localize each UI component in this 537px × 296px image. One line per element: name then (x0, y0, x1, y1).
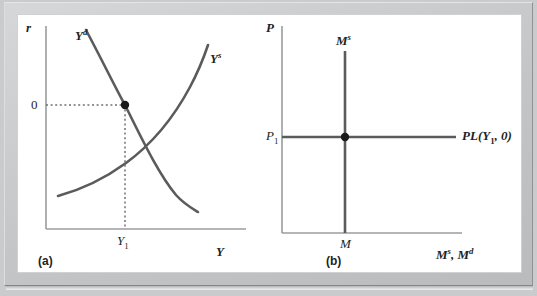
panel-b-x-axis-label: Ms, Md (436, 247, 473, 261)
panel-b-y-axis-label: P (266, 21, 274, 34)
figure-sheet: r Yd Ys 0 Y1 Y (a) P M (17, 14, 522, 273)
figure-frame-shadow (6, 286, 533, 290)
panel-b-y-tick-label-sub: 1 (274, 136, 278, 146)
panel-a-plot (18, 15, 266, 272)
panel-b-line-label-pl-suffix: , 0) (495, 128, 512, 143)
panel-a-caption: (a) (38, 255, 53, 267)
panel-a-x-tick-label: Y1 (117, 234, 129, 250)
panel-a-curve-label-yd-base: Y (75, 28, 83, 43)
panel-a-x-tick-label-sub: 1 (124, 241, 128, 251)
panel-b-x-tick-label: M (340, 237, 351, 250)
panel-a-curve-label-ys: Ys (210, 51, 221, 65)
panel-a-y-axis-label: r (26, 21, 31, 34)
figure-root: r Yd Ys 0 Y1 Y (a) P M (0, 0, 537, 296)
panel-a-x-axis-label: Y (216, 245, 224, 258)
panel-b-line-label-pl: PL(Y1, 0) (462, 129, 512, 145)
panel-b-line-label-pl-prefix: PL(Y (462, 128, 490, 143)
panel-b-line-label-ms: Ms (336, 33, 351, 47)
panel-b-y-tick-label-base: P (266, 128, 274, 143)
panel-b-money-market: P Ms P1 PL(Y1, 0) M Ms, Md (b) (266, 15, 521, 272)
panel-a-curve-yd (86, 30, 198, 212)
panel-b-equilibrium-dot (341, 133, 349, 141)
panel-b-caption: (b) (326, 255, 341, 267)
panel-b-x-axis-label-part1-base: M (436, 247, 448, 262)
panel-a-goods-market: r Yd Ys 0 Y1 Y (a) (18, 15, 266, 272)
panel-a-y-tick-label: 0 (31, 98, 38, 111)
panel-a-curve-label-ys-base: Y (210, 51, 218, 66)
panel-b-x-axis-label-part2-sup: d (469, 246, 473, 256)
panel-b-line-label-ms-base: M (336, 33, 348, 48)
panel-b-line-label-ms-sup: s (348, 32, 351, 42)
panel-b-y-tick-label: P1 (266, 129, 278, 145)
panel-a-curve-label-ys-sup: s (218, 50, 221, 60)
panel-b-x-axis-label-part2-base: M (458, 247, 470, 262)
panel-a-curve-label-yd-sup: d (83, 27, 87, 37)
panel-a-curve-label-yd: Yd (75, 28, 87, 42)
panel-a-equilibrium-dot (121, 101, 129, 109)
